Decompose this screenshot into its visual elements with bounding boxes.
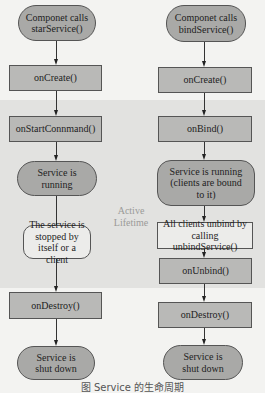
connector (56, 90, 57, 110)
node-text: Service is shut down (34, 352, 78, 375)
node-text: The service is stopped by itself or a cl… (26, 219, 88, 265)
connector (56, 141, 57, 156)
left-service-running-node: Service is running (17, 161, 97, 196)
node-text: onCreate() (34, 72, 77, 84)
node-text: Componet calls starService() (19, 12, 95, 35)
node-text: Service is running (clients are bound to… (168, 166, 244, 201)
connector (56, 318, 57, 340)
node-text: onDestroy() (181, 309, 229, 321)
connector (204, 283, 205, 296)
node-text: Service is shut down (180, 351, 226, 374)
on-start-command-node: onStartConnmand() (9, 116, 102, 142)
node-text: onDestroy() (31, 300, 79, 312)
connector (204, 42, 205, 62)
on-unbind-node: onUnbind() (159, 258, 252, 284)
figure-caption: 图 Service 的生命周期 (0, 383, 265, 393)
connector (56, 40, 57, 60)
service-stopped-node: The service is stopped by itself or a cl… (23, 225, 91, 259)
active-lifetime-text: Active Lifetime (114, 205, 148, 228)
start-service-call-node: Componet calls starService() (18, 5, 96, 41)
node-text: Service is running (32, 167, 82, 190)
on-bind-node: onBind() (158, 116, 252, 142)
left-on-create-node: onCreate() (9, 65, 102, 91)
right-service-running-node: Service is running (clients are bound to… (157, 160, 255, 206)
caption-text: 图 Service 的生命周期 (81, 382, 184, 393)
left-service-shut-down-node: Service is shut down (17, 346, 95, 380)
connector (204, 141, 205, 155)
node-text: onStartConnmand() (16, 123, 95, 135)
right-service-shut-down-node: Service is shut down (163, 345, 243, 380)
right-on-destroy-node: onDestroy() (158, 302, 252, 328)
bind-service-call-node: Componet calls bindService() (166, 5, 246, 42)
active-lifetime-label: Active Lifetime (106, 205, 156, 229)
right-on-create-node: onCreate() (158, 67, 252, 93)
node-text: All clients unbind by calling unbindServ… (158, 218, 252, 253)
left-on-destroy-node: onDestroy() (9, 292, 102, 319)
node-text: Componet calls bindService() (167, 12, 245, 35)
connector (204, 92, 205, 110)
node-text: onCreate() (184, 74, 227, 86)
node-text: onBind() (187, 123, 223, 135)
unbind-service-call-node: All clients unbind by calling unbindServ… (157, 222, 253, 249)
node-text: onUnbind() (182, 265, 229, 277)
